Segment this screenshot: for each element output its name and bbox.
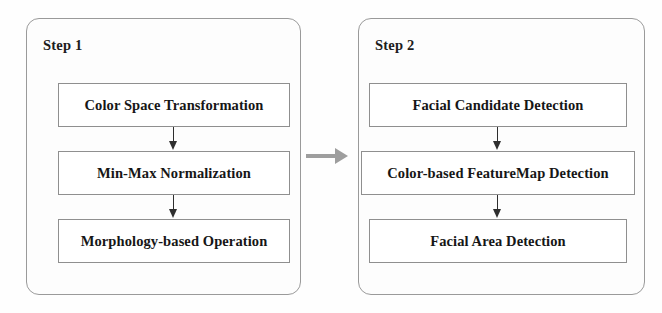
process-box-label: Facial Area Detection xyxy=(430,234,566,249)
flow-arrow-down-icon xyxy=(168,127,180,151)
panel-step-1-title: Step 1 xyxy=(43,37,82,54)
arrow-head xyxy=(493,141,501,150)
flow-arrow-down-icon xyxy=(168,195,180,219)
process-box-color-based-featuremap-detection: Color-based FeatureMap Detection xyxy=(361,151,635,195)
process-box-facial-candidate-detection: Facial Candidate Detection xyxy=(369,83,627,127)
process-box-facial-area-detection: Facial Area Detection xyxy=(369,219,627,263)
panel-step-2-title: Step 2 xyxy=(375,37,414,54)
process-box-min-max-normalization: Min-Max Normalization xyxy=(58,151,290,195)
process-box-label: Color Space Transformation xyxy=(84,98,263,113)
panel-step-2: Step 2 Facial Candidate Detection Color-… xyxy=(358,18,645,295)
process-box-label: Min-Max Normalization xyxy=(97,166,251,181)
panel-step-1: Step 1 Color Space Transformation Min-Ma… xyxy=(26,18,301,295)
arrow-head xyxy=(335,148,348,164)
flow-arrow-down-icon xyxy=(492,127,504,151)
arrow-head xyxy=(169,141,177,150)
flow-arrow-down-icon xyxy=(492,195,504,219)
connector-arrow-right-icon xyxy=(306,148,350,164)
process-box-color-space-transformation: Color Space Transformation xyxy=(58,83,290,127)
process-box-label: Morphology-based Operation xyxy=(81,234,268,249)
arrow-head xyxy=(493,209,501,218)
arrow-stem xyxy=(306,154,337,159)
process-box-morphology-based-operation: Morphology-based Operation xyxy=(58,219,290,263)
diagram-canvas: Step 1 Color Space Transformation Min-Ma… xyxy=(0,0,662,313)
arrow-head xyxy=(169,209,177,218)
process-box-label: Facial Candidate Detection xyxy=(413,98,584,113)
process-box-label: Color-based FeatureMap Detection xyxy=(387,166,608,181)
